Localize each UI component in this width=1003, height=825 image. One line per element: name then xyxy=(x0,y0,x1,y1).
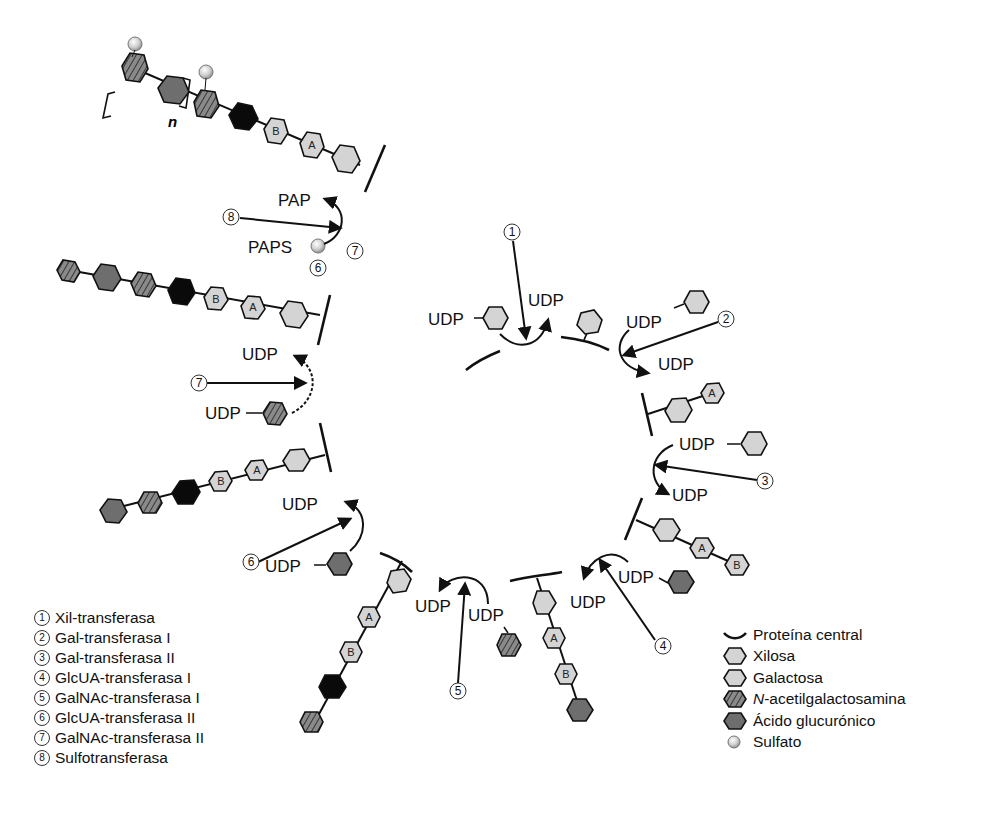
svg-text:6: 6 xyxy=(248,555,255,569)
svg-text:7: 7 xyxy=(352,244,359,258)
svg-text:PAP: PAP xyxy=(278,191,311,210)
symbol-legend-item: Sulfato xyxy=(722,732,906,754)
svg-text:A: A xyxy=(365,611,373,623)
svg-text:7: 7 xyxy=(196,376,203,390)
chain-stage-7: B A UDP UDP 7 xyxy=(57,260,330,425)
sulfate-sphere xyxy=(311,239,325,253)
symbol-legend-item: Galactosa xyxy=(722,667,906,689)
galnac-hexagon xyxy=(122,53,148,82)
svg-text:UDP: UDP xyxy=(205,404,241,423)
symbol-legend: Proteína central Xilosa Galactosa N-acet… xyxy=(722,624,906,753)
svg-text:5: 5 xyxy=(455,684,462,698)
step-8-sulfotransferase: PAP PAPS 8 7 6 xyxy=(223,191,363,276)
enzyme-legend-item: 6GlcUA-transferasa II xyxy=(34,708,204,728)
svg-text:UDP: UDP xyxy=(672,486,708,505)
svg-text:UDP: UDP xyxy=(415,597,451,616)
glucuronic-acid-hexagon-icon xyxy=(722,711,748,731)
svg-text:B: B xyxy=(347,646,354,658)
enzyme-legend-item: 2Gal-transferasa I xyxy=(34,628,204,648)
svg-text:UDP: UDP xyxy=(528,291,564,310)
symbol-legend-item: Xilosa xyxy=(722,646,906,668)
step-1: UDP UDP 1 xyxy=(428,224,564,345)
svg-text:B: B xyxy=(562,668,569,680)
svg-text:UDP: UDP xyxy=(658,355,694,374)
symbol-legend-item: Ácido glucurónico xyxy=(722,710,906,732)
sulfate-sphere xyxy=(128,37,142,51)
sulfated-chain-top: B A n xyxy=(103,37,385,192)
enzyme-legend-item: 1Xil-transferasa xyxy=(34,608,204,628)
enzyme-legend-item: 4GlcUA-transferasa I xyxy=(34,668,204,688)
symbol-legend-item: N-acetilgalactosamina xyxy=(722,689,906,711)
svg-text:A: A xyxy=(249,301,257,313)
svg-text:UDP: UDP xyxy=(265,557,301,576)
svg-text:1: 1 xyxy=(509,225,516,239)
step-3: UDP UDP 3 xyxy=(654,432,773,505)
chain-stage-6: B A UDP UDP 6 xyxy=(100,423,363,576)
galnac-hexagon xyxy=(194,90,219,118)
chain-stage-5: A B xyxy=(300,553,412,732)
svg-text:A: A xyxy=(698,542,706,554)
svg-text:6: 6 xyxy=(315,261,322,275)
svg-text:UDP: UDP xyxy=(570,593,606,612)
chain-stage-3: A B xyxy=(625,498,749,575)
svg-text:2: 2 xyxy=(723,312,730,326)
svg-text:UDP: UDP xyxy=(428,310,464,329)
svg-text:UDP: UDP xyxy=(679,435,715,454)
svg-text:8: 8 xyxy=(228,210,235,224)
svg-text:A: A xyxy=(253,464,261,476)
svg-text:A: A xyxy=(708,387,716,399)
svg-text:B: B xyxy=(733,559,740,571)
svg-text:UDP: UDP xyxy=(242,345,278,364)
xylose-hexagon xyxy=(332,145,360,173)
symbol-legend-item: Proteína central xyxy=(722,624,906,646)
step-5: UDP UDP 5 xyxy=(415,577,521,699)
enzyme-legend-item: 7GalNAc-transferasa II xyxy=(34,728,204,748)
svg-text:A: A xyxy=(308,139,316,151)
svg-text:B: B xyxy=(272,125,279,137)
svg-text:UDP: UDP xyxy=(618,568,654,587)
svg-text:B: B xyxy=(217,475,224,487)
svg-text:4: 4 xyxy=(660,639,667,653)
step-4: UDP UDP 4 xyxy=(570,555,694,654)
chain-stage-2: A xyxy=(642,383,724,436)
svg-text:3: 3 xyxy=(762,474,769,488)
svg-text:UDP: UDP xyxy=(468,606,504,625)
core-protein-icon xyxy=(722,625,748,645)
svg-text:A: A xyxy=(550,632,558,644)
step-2: UDP UDP 2 xyxy=(620,291,734,374)
galnac-hexagon-icon xyxy=(722,689,748,709)
svg-text:PAPS: PAPS xyxy=(248,238,292,257)
enzyme-legend-item: 8Sulfotransferasa xyxy=(34,748,204,768)
sulfate-sphere-icon xyxy=(722,732,748,752)
svg-text:n: n xyxy=(168,113,177,130)
svg-text:UDP: UDP xyxy=(626,313,662,332)
svg-text:B: B xyxy=(212,293,219,305)
enzyme-legend-item: 5GalNAc-transferasa I xyxy=(34,688,204,708)
xylose-hexagon-icon xyxy=(722,646,748,666)
black-sugar-hexagon xyxy=(229,103,258,130)
svg-text:UDP: UDP xyxy=(282,495,318,514)
galactose-hexagon-icon xyxy=(722,668,748,688)
enzyme-legend: 1Xil-transferasa 2Gal-transferasa I 3Gal… xyxy=(34,608,204,768)
enzyme-legend-item: 3Gal-transferasa II xyxy=(34,648,204,668)
sulfate-sphere xyxy=(199,65,213,79)
core-protein xyxy=(365,145,385,192)
